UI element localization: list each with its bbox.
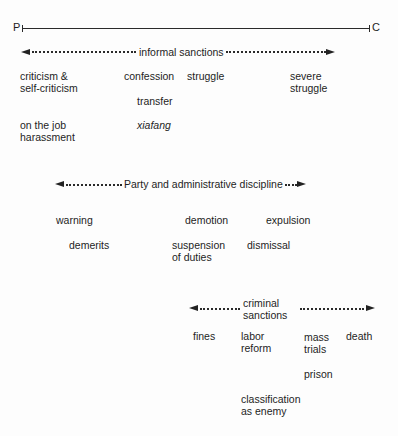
item-suspension-line2: of duties <box>172 251 212 263</box>
item-death: death <box>346 330 372 342</box>
party-dots-left <box>66 184 122 186</box>
item-criticism-line1: criticism & <box>20 70 68 82</box>
criminal-right-arrow-icon <box>366 305 375 311</box>
axis-left-label: P <box>13 21 20 33</box>
criminal-range-label-line1: criminal <box>243 297 279 309</box>
informal-dots-right <box>226 51 326 53</box>
item-xiafang: xiafang <box>137 119 171 131</box>
item-labor-reform-line2: reform <box>241 342 271 354</box>
criminal-left-arrow-icon <box>189 305 198 311</box>
item-on-the-job-line2: harassment <box>20 131 75 143</box>
item-confession: confession <box>124 70 174 82</box>
axis-line <box>22 28 370 29</box>
criminal-dots-left <box>200 308 240 310</box>
item-prison: prison <box>304 368 333 380</box>
sanctions-continuum-diagram: P C informal sanctions criticism & self-… <box>0 0 398 436</box>
item-transfer: transfer <box>137 95 173 107</box>
party-dots-right <box>285 184 297 186</box>
axis-right-label: C <box>372 21 380 33</box>
item-severe-struggle-line1: severe <box>290 70 322 82</box>
item-criticism-line2: self-criticism <box>20 82 78 94</box>
item-on-the-job-line1: on the job <box>20 119 66 131</box>
party-right-arrow-icon <box>297 181 306 187</box>
informal-range-label: informal sanctions <box>139 46 224 58</box>
item-warning: warning <box>56 214 93 226</box>
item-mass-trials-line2: trials <box>304 343 326 355</box>
item-demotion: demotion <box>185 214 228 226</box>
item-fines: fines <box>193 330 215 342</box>
informal-right-arrow-icon <box>326 49 335 55</box>
item-mass-trials-line1: mass <box>304 331 329 343</box>
criminal-dots-right <box>300 308 364 310</box>
informal-left-arrow-icon <box>21 49 30 55</box>
item-labor-reform-line1: labor <box>241 330 264 342</box>
item-classification-line2: as enemy <box>241 405 287 417</box>
item-expulsion: expulsion <box>266 214 310 226</box>
item-demerits: demerits <box>69 239 109 251</box>
axis-right-tick <box>369 25 370 32</box>
item-suspension-line1: suspension <box>172 239 225 251</box>
item-dismissal: dismissal <box>247 239 290 251</box>
informal-dots-left <box>32 51 136 53</box>
party-left-arrow-icon <box>55 181 64 187</box>
item-severe-struggle-line2: struggle <box>290 82 327 94</box>
party-range-label: Party and administrative discipline <box>124 178 283 190</box>
criminal-range-label-line2: sanctions <box>243 309 287 321</box>
item-classification-line1: classification <box>241 393 301 405</box>
item-struggle: struggle <box>187 70 224 82</box>
